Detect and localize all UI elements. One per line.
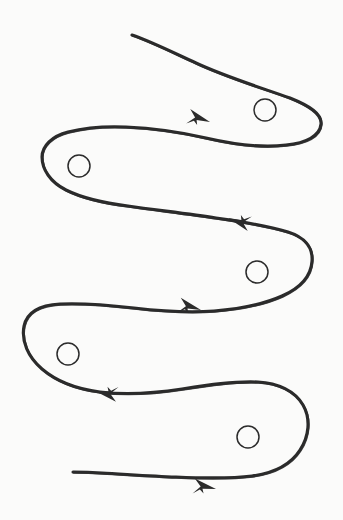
paper-background [0, 0, 343, 520]
drawing-canvas [0, 0, 343, 520]
serpentine-path-diagram [0, 0, 343, 520]
